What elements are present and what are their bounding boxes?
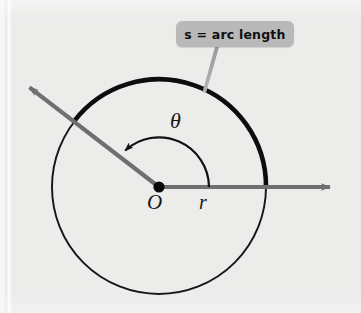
arc-length-highlight (74, 79, 266, 187)
arc-length-callout-box: s = arc length (176, 21, 294, 47)
arc-length-figure: s = arc length O r θ (0, 0, 361, 313)
callout-leader-line (203, 47, 220, 93)
angle-sweep-arc (125, 137, 209, 187)
radius-label: r (199, 192, 207, 212)
arc-length-callout-label: s = arc length (184, 27, 285, 42)
angle-theta-label: θ (170, 110, 181, 132)
center-point-label: O (147, 192, 162, 213)
